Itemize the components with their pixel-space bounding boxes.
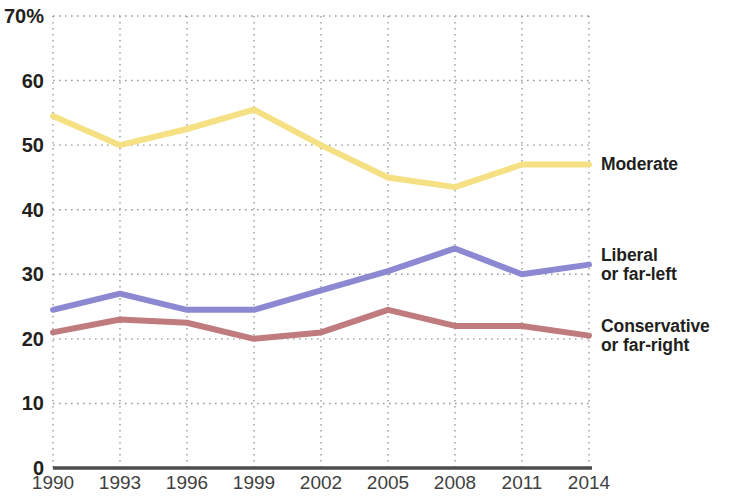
series-line-0 <box>53 110 589 187</box>
x-axis-tick-2008: 2008 <box>420 472 490 494</box>
line-chart: 010203040506070% 19901993199619992002200… <box>0 0 730 499</box>
y-axis-tick-40: 40 <box>0 198 44 221</box>
vertical-gridlines <box>53 16 589 468</box>
legend-label-line2: or far-left <box>601 265 677 284</box>
legend-label-line1: Conservative <box>601 316 710 336</box>
y-axis-tick-30: 30 <box>0 263 44 286</box>
x-axis-tick-1999: 1999 <box>219 472 289 494</box>
legend-label-liberal-or-far-left: Liberalor far-left <box>601 246 677 284</box>
y-axis-tick-10: 10 <box>0 392 44 415</box>
x-axis-tick-2014: 2014 <box>554 472 624 494</box>
y-axis-tick-70: 70% <box>0 5 44 28</box>
x-axis-tick-1993: 1993 <box>85 472 155 494</box>
legend-label-line1: Liberal <box>601 245 658 265</box>
y-axis-tick-50: 50 <box>0 134 44 157</box>
horizontal-gridlines <box>53 16 592 403</box>
series-line-2 <box>53 310 589 339</box>
legend-label-line2: or far-right <box>601 336 710 355</box>
legend-label-moderate: Moderate <box>601 155 678 174</box>
x-axis-tick-1996: 1996 <box>152 472 222 494</box>
x-axis-tick-2002: 2002 <box>286 472 356 494</box>
legend-label-line1: Moderate <box>601 154 678 174</box>
y-axis-tick-20: 20 <box>0 327 44 350</box>
y-axis-tick-60: 60 <box>0 69 44 92</box>
x-axis-tick-2005: 2005 <box>353 472 423 494</box>
series-line-1 <box>53 248 589 309</box>
legend-label-conservative-or-far-right: Conservativeor far-right <box>601 317 710 355</box>
x-axis-tick-1990: 1990 <box>18 472 88 494</box>
x-axis-tick-2011: 2011 <box>487 472 557 494</box>
